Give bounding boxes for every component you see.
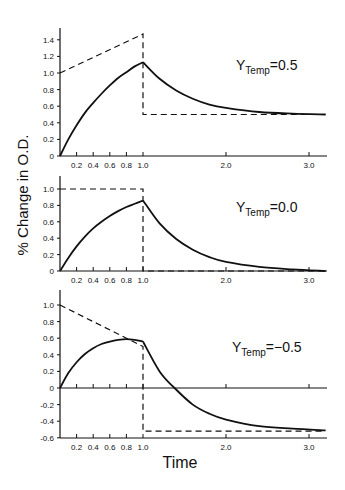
panel3-annotation: YTemp=−0.5	[232, 339, 302, 358]
y-tick-label: 0.2	[43, 251, 55, 260]
y-tick-label: 0.4	[43, 234, 55, 243]
x-tick-label: 1.0	[137, 443, 149, 452]
y-tick-label: 0.4	[43, 119, 55, 128]
x-axis-label: Time	[163, 454, 198, 471]
x-tick-label: 0.4	[88, 276, 100, 285]
solid-response-curve	[60, 62, 326, 156]
y-tick-label: 1.4	[43, 36, 55, 45]
panel2-annotation: YTemp=0.0	[236, 199, 298, 218]
y-tick-label: -0.4	[40, 417, 54, 426]
x-tick-label: 2.0	[220, 276, 232, 285]
x-tick-label: 2.0	[220, 161, 232, 170]
x-tick-label: 0.2	[71, 443, 83, 452]
y-tick-label: -0.6	[40, 434, 54, 443]
figure: % Change in O.D. 00.20.40.60.81.01.21.40…	[0, 0, 345, 490]
x-tick-label: 3.0	[303, 161, 315, 170]
x-tick-label: 0.8	[121, 443, 133, 452]
panel-ytemp-0.0: 00.20.40.60.81.00.20.40.60.81.02.03.0	[43, 176, 327, 285]
y-tick-label: 1.0	[43, 185, 55, 194]
y-tick-label: 0.8	[43, 86, 55, 95]
x-tick-label: 3.0	[303, 276, 315, 285]
y-tick-label: 0	[50, 267, 55, 276]
y-tick-label: 0.6	[43, 334, 55, 343]
y-tick-label: 0	[50, 152, 55, 161]
y-tick-label: -0.2	[40, 401, 54, 410]
x-tick-label: 0.6	[104, 443, 116, 452]
x-tick-label: 0.4	[88, 161, 100, 170]
x-tick-label: 1.0	[137, 161, 149, 170]
y-tick-label: 0.2	[43, 135, 55, 144]
y-tick-label: 0.6	[43, 102, 55, 111]
y-tick-label: 1.0	[43, 69, 55, 78]
y-tick-label: 0.6	[43, 218, 55, 227]
panel1-annotation: YTemp=0.5	[236, 57, 298, 76]
x-tick-label: 0.4	[88, 443, 100, 452]
dashed-input-line	[60, 34, 326, 115]
y-tick-label: 0	[50, 384, 55, 393]
x-tick-label: 2.0	[220, 443, 232, 452]
y-axis-label: % Change in O.D.	[14, 135, 31, 256]
panel-ytemp-0.5: 00.20.40.60.81.01.21.40.20.40.60.81.02.0…	[43, 28, 327, 170]
x-tick-label: 0.2	[71, 161, 83, 170]
x-tick-label: 0.2	[71, 276, 83, 285]
x-tick-label: 1.0	[137, 276, 149, 285]
x-tick-label: 0.6	[104, 276, 116, 285]
x-tick-label: 0.8	[121, 276, 133, 285]
panel-ytemp-neg0.5: -0.6-0.4-0.200.20.40.60.81.00.20.40.60.8…	[40, 290, 327, 452]
y-tick-label: 0.4	[43, 351, 55, 360]
x-tick-label: 3.0	[303, 443, 315, 452]
y-tick-label: 0.8	[43, 201, 55, 210]
y-tick-label: 0.8	[43, 318, 55, 327]
y-tick-label: 1.2	[43, 52, 55, 61]
y-tick-label: 1.0	[43, 301, 55, 310]
y-tick-label: 0.2	[43, 367, 55, 376]
x-tick-label: 0.6	[104, 161, 116, 170]
x-tick-label: 0.8	[121, 161, 133, 170]
dashed-input-line	[60, 305, 326, 431]
